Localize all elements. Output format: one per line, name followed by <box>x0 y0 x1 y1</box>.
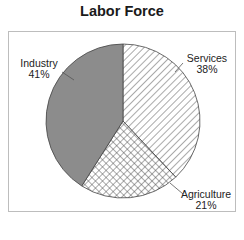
agriculture-label-pct: 21% <box>178 200 234 211</box>
industry-label: Industry 41% <box>14 58 64 80</box>
agriculture-label: Agriculture 21% <box>178 189 234 211</box>
pie-slices <box>46 44 200 198</box>
services-label: Services 38% <box>182 53 232 75</box>
industry-label-pct: 41% <box>14 69 64 80</box>
services-label-pct: 38% <box>182 64 232 75</box>
